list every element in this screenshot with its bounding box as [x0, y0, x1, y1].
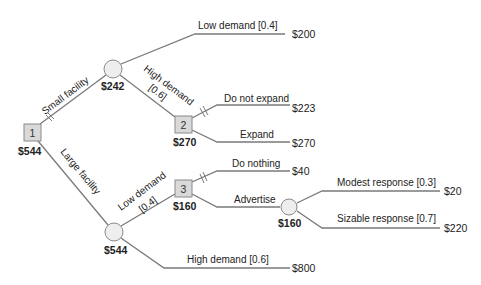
branch-label-small-low-demand: Low demand [0.4]: [198, 20, 278, 31]
payoff-modest: $20: [444, 185, 462, 197]
edge-small-low-demand: [121, 34, 285, 64]
decision-node-1-label: 1: [30, 127, 36, 139]
decision-node-3-value: $160: [173, 200, 197, 212]
branch-label-sizable-response: Sizable response [0.7]: [337, 213, 436, 224]
decision-node-3-label: 3: [181, 183, 187, 195]
payoff-sizable: $220: [444, 222, 468, 234]
payoff-expand: $270: [292, 137, 316, 149]
branch-label-large-high-demand: High demand [0.6]: [187, 254, 269, 265]
chance-node-small-value: $242: [101, 80, 125, 92]
decision-tree-diagram: 1 $544 $242 2 $270 $544 3 $160 $160 Smal…: [0, 0, 481, 285]
branch-label-small-facility: Small facility: [40, 74, 91, 116]
branch-label-advertise: Advertise: [234, 194, 276, 205]
pruned-marker-icon: [200, 108, 205, 117]
chance-node-small: [104, 60, 122, 78]
payoff-do-nothing: $40: [292, 165, 310, 177]
branch-label-do-not-expand: Do not expand: [224, 93, 289, 104]
decision-node-1-value: $544: [18, 145, 42, 157]
payoff-large-high: $800: [292, 262, 316, 274]
decision-node-2-label: 2: [181, 119, 187, 131]
branch-label-expand: Expand: [240, 129, 274, 140]
payoff-small-low: $200: [292, 28, 316, 40]
chance-node-advertise-value: $160: [278, 217, 302, 229]
chance-node-large: [105, 223, 123, 241]
chance-node-advertise: [281, 199, 297, 215]
payoff-do-not-expand: $223: [292, 102, 316, 114]
branch-label-modest-response: Modest response [0.3]: [337, 177, 436, 188]
edge-do-not-expand: [192, 105, 290, 118]
edge-modest-response: [297, 191, 440, 203]
chance-node-large-value: $544: [104, 244, 128, 256]
branch-label-large-facility: Large facility: [58, 146, 103, 196]
branch-label-do-nothing: Do nothing: [232, 158, 280, 169]
decision-node-2-value: $270: [173, 136, 197, 148]
